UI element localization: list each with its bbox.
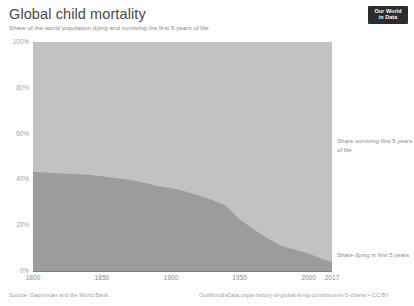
x-tick-label: 1800 [26,274,41,281]
x-tick-label: 1900 [163,274,178,281]
source-text: Source: Gapminder and the World Bank. [9,292,110,298]
y-tick-label: 80% [0,84,29,91]
x-tick-label: 2000 [301,274,316,281]
our-world-in-data-logo[interactable]: Our World in Data [368,6,408,24]
chart-subtitle: Share of the world population dying and … [9,24,210,31]
x-tick-label: 1850 [95,274,110,281]
x-axis-line [33,271,332,272]
series-label-surviving: Share surviving first 5 years of life [337,137,413,155]
logo-line-2: in Data [379,15,398,21]
y-tick-label: 20% [0,221,29,228]
x-tick-label: 1950 [232,274,247,281]
y-tick-label: 0% [0,267,29,274]
stacked-area-chart [33,42,332,271]
y-tick-label: 60% [0,130,29,137]
chart-root: Global child mortality Share of the worl… [0,0,414,306]
x-tick-label: 2017 [325,274,340,281]
series-label-dying: Share dying in first 5 years [337,251,413,260]
y-tick-label: 100% [0,38,29,45]
y-tick-label: 40% [0,175,29,182]
footer-link[interactable]: OurWorldInData.org/a-history-of-global-l… [199,292,389,298]
plot-area [33,42,332,271]
page-title: Global child mortality [9,6,146,22]
